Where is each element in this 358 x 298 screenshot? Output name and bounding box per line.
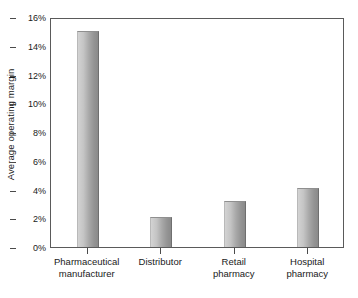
y-tick-mark bbox=[10, 133, 16, 134]
y-tick-label: 12% bbox=[16, 71, 46, 80]
y-tick-label: 8% bbox=[16, 129, 46, 138]
plot-inner bbox=[51, 19, 343, 247]
x-category-label-line: Hospital bbox=[259, 256, 355, 268]
bar bbox=[297, 188, 319, 247]
y-tick-mark bbox=[10, 248, 16, 249]
x-tick-mark bbox=[87, 248, 88, 254]
plot-area bbox=[50, 18, 344, 248]
y-axis-title-text: Average operating margin bbox=[6, 68, 17, 180]
x-tick-mark bbox=[234, 248, 235, 254]
y-tick-label: 10% bbox=[16, 100, 46, 109]
bar bbox=[224, 201, 246, 247]
y-tick-label: 6% bbox=[16, 157, 46, 166]
x-tick-mark bbox=[160, 248, 161, 254]
bar-chart: Average operating margin 0%2%4%6%8%10%12… bbox=[0, 0, 358, 298]
bar bbox=[150, 217, 172, 247]
y-tick-mark bbox=[10, 162, 16, 163]
y-tick-mark bbox=[10, 47, 16, 48]
x-category-label: Hospitalpharmacy bbox=[259, 256, 355, 279]
y-tick-label: 4% bbox=[16, 186, 46, 195]
y-tick-label: 2% bbox=[16, 215, 46, 224]
x-category-label-line: manufacturer bbox=[39, 268, 135, 280]
y-axis-tick-labels: 0%2%4%6%8%10%12%14%16% bbox=[16, 0, 46, 298]
y-tick-label: 0% bbox=[16, 244, 46, 253]
y-tick-mark bbox=[10, 104, 16, 105]
y-tick-label: 16% bbox=[16, 14, 46, 23]
y-tick-mark bbox=[10, 76, 16, 77]
x-category-label-line: pharmacy bbox=[259, 268, 355, 280]
y-tick-mark bbox=[10, 18, 16, 19]
y-tick-mark bbox=[10, 219, 16, 220]
bar bbox=[77, 31, 99, 247]
x-tick-mark bbox=[307, 248, 308, 254]
y-tick-mark bbox=[10, 191, 16, 192]
y-tick-label: 14% bbox=[16, 42, 46, 51]
